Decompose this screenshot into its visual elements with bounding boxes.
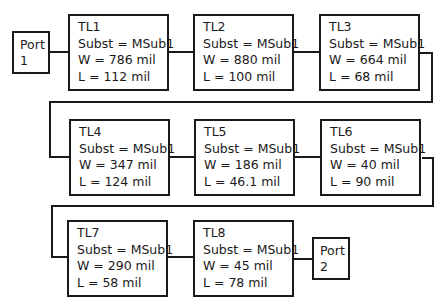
tline-width: W = 347 mil — [79, 157, 168, 174]
tline-width: W = 880 mil — [203, 52, 292, 69]
wire-tl6-tl7-d — [51, 205, 53, 258]
tline-subst: Subst = MSub1 — [203, 242, 292, 259]
tline-width: W = 40 mil — [330, 157, 419, 174]
tline-name: TL3 — [329, 19, 418, 36]
port-label: Port — [20, 37, 48, 53]
wire-tl3-tl4-d — [49, 101, 51, 158]
wire-tl3-tl4-c — [49, 101, 433, 103]
tline-length: L = 68 mil — [329, 69, 418, 86]
wire-tl5-tl6 — [295, 156, 321, 158]
port-1[interactable]: Port 1 — [12, 31, 50, 74]
wire-tl3-tl4-e — [49, 156, 70, 158]
tline-tl3[interactable]: TL3 Subst = MSub1 W = 664 mil L = 68 mil — [319, 14, 420, 91]
tline-tl7[interactable]: TL7 Subst = MSub1 W = 290 mil L = 58 mil — [67, 220, 168, 297]
wire-tl1-tl2 — [168, 51, 194, 53]
wire-tl6-tl7-e — [51, 256, 68, 258]
tline-subst: Subst = MSub1 — [330, 141, 419, 158]
tline-length: L = 124 mil — [79, 174, 168, 191]
tline-length: L = 100 mil — [203, 69, 292, 86]
tline-tl1[interactable]: TL1 Subst = MSub1 W = 786 mil L = 112 mi… — [68, 14, 169, 91]
tline-name: TL2 — [203, 19, 292, 36]
tline-tl4[interactable]: TL4 Subst = MSub1 W = 347 mil L = 124 mi… — [69, 119, 170, 196]
tline-name: TL6 — [330, 124, 419, 141]
port-label: Port — [320, 243, 348, 259]
wire-tl3-tl4-b — [431, 52, 433, 103]
tline-subst: Subst = MSub1 — [204, 141, 293, 158]
tline-subst: Subst = MSub1 — [77, 242, 166, 259]
port-number: 2 — [320, 259, 348, 275]
tline-width: W = 186 mil — [204, 157, 293, 174]
tline-tl8[interactable]: TL8 Subst = MSub1 W = 45 mil L = 78 mil — [193, 220, 294, 297]
tline-name: TL5 — [204, 124, 293, 141]
tline-width: W = 664 mil — [329, 52, 418, 69]
tline-tl2[interactable]: TL2 Subst = MSub1 W = 880 mil L = 100 mi… — [193, 14, 294, 91]
tline-subst: Subst = MSub1 — [329, 36, 418, 53]
tline-length: L = 78 mil — [203, 275, 292, 292]
tline-name: TL7 — [77, 225, 166, 242]
tline-subst: Subst = MSub1 — [79, 141, 168, 158]
tline-length: L = 90 mil — [330, 174, 419, 191]
tline-length: L = 46.1 mil — [204, 174, 293, 191]
tline-name: TL4 — [79, 124, 168, 141]
tline-name: TL1 — [78, 19, 167, 36]
wire-port1-tl1 — [49, 51, 69, 53]
tline-length: L = 58 mil — [77, 275, 166, 292]
tline-length: L = 112 mil — [78, 69, 167, 86]
wire-tl6-tl7-c — [51, 205, 434, 207]
port-2[interactable]: Port 2 — [312, 237, 350, 280]
tline-tl6[interactable]: TL6 Subst = MSub1 W = 40 mil L = 90 mil — [320, 119, 421, 196]
tline-width: W = 290 mil — [77, 258, 166, 275]
port-number: 1 — [20, 53, 48, 69]
tline-width: W = 786 mil — [78, 52, 167, 69]
wire-tl2-tl3 — [294, 51, 320, 53]
wire-tl8-port2 — [294, 258, 313, 260]
tline-name: TL8 — [203, 225, 292, 242]
wire-tl6-tl7-b — [432, 157, 434, 207]
tline-width: W = 45 mil — [203, 258, 292, 275]
tline-subst: Subst = MSub1 — [203, 36, 292, 53]
tline-subst: Subst = MSub1 — [78, 36, 167, 53]
wire-tl4-tl5 — [170, 156, 195, 158]
tline-tl5[interactable]: TL5 Subst = MSub1 W = 186 mil L = 46.1 m… — [194, 119, 295, 196]
